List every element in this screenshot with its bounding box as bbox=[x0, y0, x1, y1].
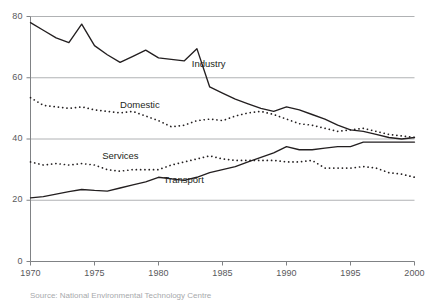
x-axis-label-1985: 1985 bbox=[203, 269, 243, 278]
x-tick-marks-group bbox=[31, 262, 415, 266]
x-axis-label-1995: 1995 bbox=[331, 269, 371, 278]
y-axis-label-60: 60 bbox=[3, 73, 23, 82]
y-tick-marks-group bbox=[27, 17, 31, 262]
x-axis-label-1970: 1970 bbox=[11, 269, 51, 278]
series-label-transport: Transport bbox=[164, 175, 204, 185]
y-axis-label-80: 80 bbox=[3, 12, 23, 21]
gridlines-group bbox=[31, 17, 415, 262]
x-axis-label-1990: 1990 bbox=[267, 269, 307, 278]
series-label-domestic: Domestic bbox=[120, 100, 160, 110]
y-axis-label-40: 40 bbox=[3, 134, 23, 143]
x-axis-label-2000: 2000 bbox=[395, 269, 427, 278]
y-axis-label-20: 20 bbox=[3, 195, 23, 204]
series-line-industry bbox=[31, 23, 415, 139]
series-line-transport bbox=[31, 142, 415, 198]
series-line-services bbox=[31, 156, 415, 177]
x-axis-label-1980: 1980 bbox=[139, 269, 179, 278]
x-axis-label-1975: 1975 bbox=[75, 269, 115, 278]
series-label-services: Services bbox=[102, 151, 138, 161]
series-line-domestic bbox=[31, 98, 415, 138]
series-label-industry: Industry bbox=[192, 59, 226, 69]
figure-caption: Source: National Environmental Technolog… bbox=[30, 291, 420, 300]
y-axis-label-0: 0 bbox=[3, 257, 23, 266]
data-series-group bbox=[31, 23, 415, 198]
